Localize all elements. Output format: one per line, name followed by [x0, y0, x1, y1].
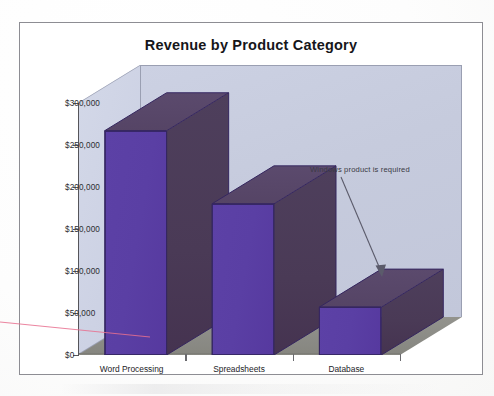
y-axis-tick-label: $250,000	[65, 141, 67, 150]
x-axis-category-label: Word Processing	[100, 364, 164, 374]
chart-plot-area: $300,000$250,000$200,000$150,000$100,000…	[78, 65, 462, 355]
y-axis-tick-label: $200,000	[65, 183, 67, 192]
y-axis-tick-label: $50,000	[65, 309, 67, 318]
y-axis-tick-label: $300,000	[65, 99, 67, 108]
scanned-page: Revenue by Product Category $300,000$250…	[0, 0, 494, 396]
x-axis-category-label: Database	[328, 364, 364, 374]
x-axis-category-label: Spreadsheets	[213, 364, 265, 374]
annotation-label: Windows product is required	[310, 165, 410, 174]
y-axis-tick-label: $100,000	[65, 267, 67, 276]
chart-title: Revenue by Product Category	[20, 37, 482, 53]
y-axis-tick-label: $150,000	[65, 225, 67, 234]
x-axis-tick	[400, 354, 401, 361]
y-axis-tick-label: $0	[65, 351, 67, 360]
bar-database	[78, 65, 462, 355]
bar-outline	[78, 65, 462, 355]
x-axis-tick	[293, 354, 294, 361]
scan-artifact	[60, 384, 440, 394]
chart-frame: Revenue by Product Category $300,000$250…	[19, 22, 483, 375]
x-axis-tick	[185, 354, 186, 361]
